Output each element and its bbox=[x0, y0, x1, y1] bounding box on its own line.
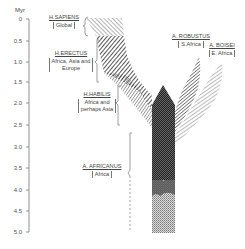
tick-label-0-5: 0.5 bbox=[0, 38, 22, 44]
time-axis bbox=[26, 19, 29, 232]
tick-label-2-5: 2.5 bbox=[0, 122, 22, 128]
taxon-region: Africa and perhaps Asia bbox=[78, 99, 116, 113]
region-line-2: Europe bbox=[62, 65, 80, 71]
region-line-2: perhaps Asia bbox=[81, 106, 113, 112]
region-line-1: Africa and bbox=[84, 99, 109, 105]
tick-label-4-5: 4.5 bbox=[0, 208, 22, 214]
taxon-region: Global bbox=[53, 22, 75, 29]
taxon-region: Africa bbox=[92, 171, 112, 178]
tick-label-3-0: 3.0 bbox=[0, 144, 22, 150]
tick-label-1-0: 1.0 bbox=[0, 59, 22, 65]
tick-label-5-0: 5.0 bbox=[0, 229, 22, 235]
taxon-name: H.SAPIENS bbox=[46, 14, 82, 21]
label-a-africanus: A. AFRICANUS Africa bbox=[81, 163, 123, 178]
label-a-boisei: A. BOISEI E. Africa bbox=[206, 42, 238, 57]
label-h-sapiens: H.SAPIENS Global bbox=[46, 14, 82, 29]
taxon-name: H.ERECTUS bbox=[47, 50, 95, 57]
label-a-robustus: A. ROBUSTUS S.Africa bbox=[172, 33, 210, 48]
taxon-name: A. BOISEI bbox=[206, 42, 238, 49]
taxon-name: A. AFRICANUS bbox=[81, 163, 123, 170]
tick-label-0: 0 bbox=[0, 16, 22, 22]
tick-label-2-0: 2.0 bbox=[0, 100, 22, 106]
taxon-name: H.HABILIS bbox=[77, 91, 117, 98]
taxon-region: E. Africa bbox=[209, 50, 236, 57]
taxon-region: S.Africa bbox=[178, 41, 204, 48]
label-h-erectus: H.ERECTUS Africa, Asia and Europe bbox=[47, 50, 95, 72]
tick-label-4-0: 4.0 bbox=[0, 187, 22, 193]
tick-label-1-5: 1.5 bbox=[0, 79, 22, 85]
africanus-trunk bbox=[152, 85, 175, 233]
tick-label-3-5: 3.5 bbox=[0, 165, 22, 171]
axis-title: Myr bbox=[15, 7, 25, 13]
taxon-region: Africa, Asia and Europe bbox=[49, 58, 94, 72]
label-h-habilis: H.HABILIS Africa and perhaps Asia bbox=[77, 91, 117, 113]
taxon-name: A. ROBUSTUS bbox=[172, 33, 210, 40]
region-line-1: Africa, Asia and bbox=[52, 58, 91, 64]
